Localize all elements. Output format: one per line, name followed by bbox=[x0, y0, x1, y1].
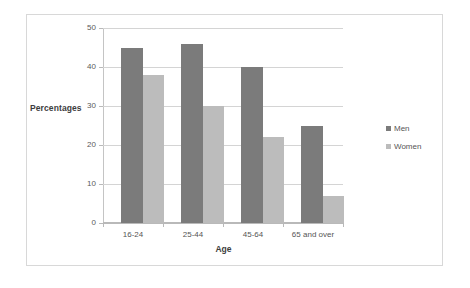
x-tick-label: 25-44 bbox=[163, 230, 223, 239]
bar-men[interactable] bbox=[121, 48, 143, 224]
x-tick-label: 65 and over bbox=[283, 230, 343, 239]
legend-label: Women bbox=[394, 142, 421, 151]
legend-item-women[interactable]: Women bbox=[386, 142, 440, 151]
y-tick-label: 30 bbox=[70, 102, 96, 110]
x-tick-mark bbox=[223, 223, 224, 227]
x-tick-mark bbox=[283, 223, 284, 227]
bar-group bbox=[181, 28, 225, 223]
x-tick-mark bbox=[103, 223, 104, 227]
legend-swatch-icon bbox=[386, 144, 391, 149]
bar-men[interactable] bbox=[241, 67, 263, 223]
bar-group bbox=[241, 28, 285, 223]
bar-women[interactable] bbox=[203, 106, 224, 223]
y-axis-tick-labels: 50 40 30 20 10 0 bbox=[66, 28, 96, 223]
bar-chart: Percentages 50 40 30 20 10 0 bbox=[0, 0, 470, 288]
bar-women[interactable] bbox=[143, 75, 164, 223]
x-tick-mark bbox=[163, 223, 164, 227]
y-tick-label: 50 bbox=[70, 24, 96, 32]
x-axis-title: Age bbox=[103, 244, 344, 254]
y-tick-label: 40 bbox=[70, 63, 96, 71]
y-tick-label: 10 bbox=[70, 180, 96, 188]
bar-men[interactable] bbox=[301, 126, 323, 224]
bar-women[interactable] bbox=[323, 196, 344, 223]
plot-area bbox=[103, 28, 343, 223]
bar-group bbox=[301, 28, 345, 223]
bar-group bbox=[121, 28, 165, 223]
x-tick-label: 45-64 bbox=[223, 230, 283, 239]
bar-men[interactable] bbox=[181, 44, 203, 223]
x-tick-label: 16-24 bbox=[103, 230, 163, 239]
y-tick-label: 20 bbox=[70, 141, 96, 149]
legend-item-men[interactable]: Men bbox=[386, 124, 440, 133]
bar-women[interactable] bbox=[263, 137, 284, 223]
x-tick-mark bbox=[343, 223, 344, 227]
legend-swatch-icon bbox=[386, 126, 391, 131]
legend: Men Women bbox=[386, 124, 440, 160]
legend-label: Men bbox=[394, 124, 410, 133]
y-tick-label: 0 bbox=[70, 219, 96, 227]
